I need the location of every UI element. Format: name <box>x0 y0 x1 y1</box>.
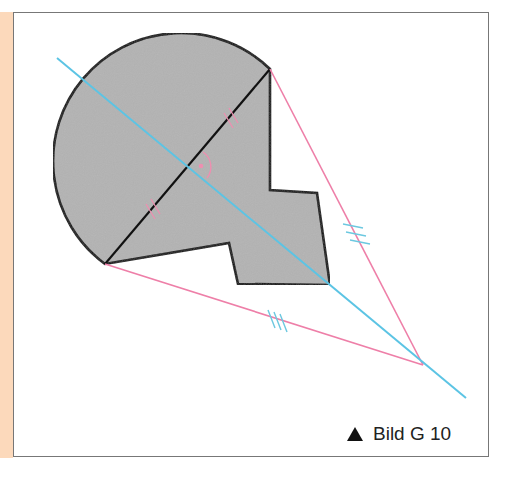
caption-label: Bild G 10 <box>373 423 451 445</box>
triangle-marker-icon <box>347 427 363 441</box>
figure-caption: Bild G 10 <box>347 423 451 445</box>
gray-shape <box>53 33 330 285</box>
right-angle-dot <box>199 164 204 169</box>
equal-marks-segment-a <box>343 224 370 244</box>
geometry-figure <box>0 0 519 480</box>
